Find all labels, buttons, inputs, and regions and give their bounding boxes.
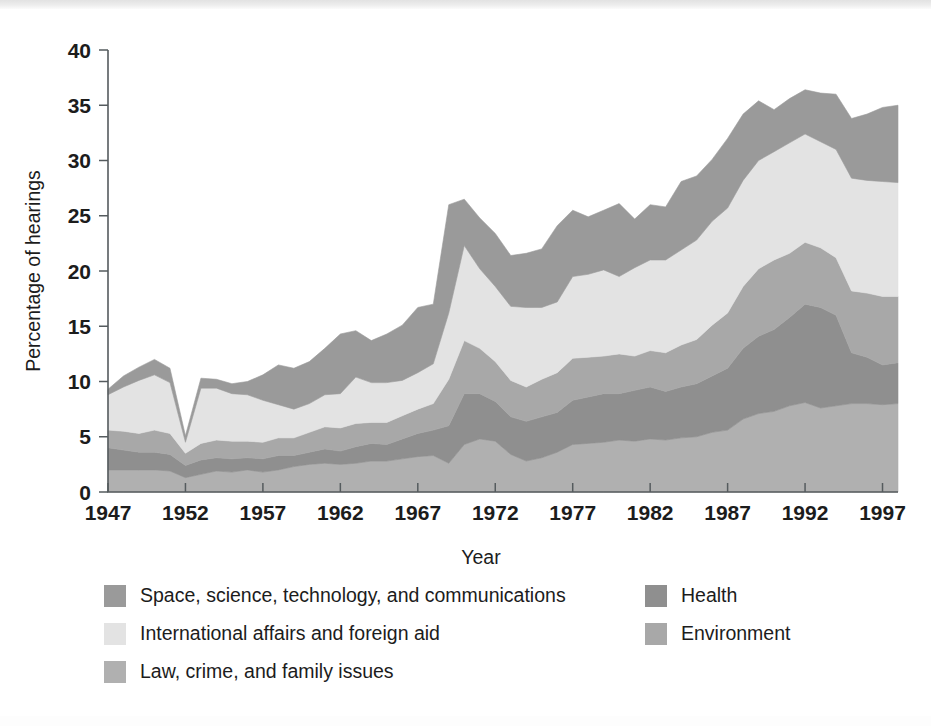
y-tick-label: 30: [68, 149, 91, 172]
legend-label: Environment: [681, 624, 790, 644]
figure-container: 0510152025303540194719521957196219671972…: [0, 9, 931, 716]
x-tick-label: 1947: [85, 501, 132, 524]
x-tick-label: 1967: [394, 501, 441, 524]
x-tick-label: 1992: [782, 501, 829, 524]
x-tick-label: 1962: [317, 501, 364, 524]
y-tick-label: 40: [68, 39, 91, 62]
x-tick-label: 1977: [549, 501, 596, 524]
y-tick-label: 15: [68, 315, 92, 338]
x-axis-title: Year: [461, 546, 501, 568]
y-tick-label: 35: [68, 94, 92, 117]
x-tick-label: 1987: [704, 501, 751, 524]
page-bottom-band: [0, 716, 931, 726]
y-tick-label: 25: [68, 204, 92, 227]
legend-column-left: Space, science, technology, and communic…: [104, 577, 624, 691]
legend-item[interactable]: Space, science, technology, and communic…: [104, 577, 624, 615]
legend-item[interactable]: Environment: [645, 615, 925, 653]
x-tick-label: 1957: [240, 501, 287, 524]
legend-label: Health: [681, 586, 737, 606]
y-axis-title: Percentage of hearings: [22, 170, 44, 372]
legend-label: Law, crime, and family issues: [140, 662, 394, 682]
legend-column-right: Health Environment: [645, 577, 925, 653]
x-tick-label: 1997: [859, 501, 906, 524]
legend-label: Space, science, technology, and communic…: [140, 586, 566, 606]
x-tick-label: 1982: [627, 501, 674, 524]
stacked-area-chart: 0510152025303540194719521957196219671972…: [0, 9, 931, 569]
x-tick-label: 1952: [162, 501, 209, 524]
legend-item[interactable]: International affairs and foreign aid: [104, 615, 624, 653]
y-tick-label: 5: [79, 425, 91, 448]
legend-swatch-law-crime: [104, 661, 126, 683]
page-top-band: [0, 0, 931, 9]
legend-item[interactable]: Health: [645, 577, 925, 615]
legend-swatch-international-affairs: [104, 623, 126, 645]
legend-swatch-environment: [645, 623, 667, 645]
legend-swatch-space-science: [104, 585, 126, 607]
legend-swatch-health: [645, 585, 667, 607]
y-tick-label: 20: [68, 260, 91, 283]
legend-item[interactable]: Law, crime, and family issues: [104, 653, 624, 691]
y-tick-label: 10: [68, 370, 91, 393]
chart-plot-area: 0510152025303540194719521957196219671972…: [0, 9, 931, 569]
x-tick-label: 1972: [472, 501, 519, 524]
legend-label: International affairs and foreign aid: [140, 624, 440, 644]
chart-legend: Space, science, technology, and communic…: [0, 569, 931, 709]
